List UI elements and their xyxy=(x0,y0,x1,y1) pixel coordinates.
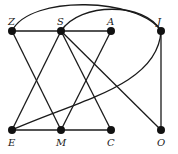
label-S: S xyxy=(57,16,64,27)
label-E: E xyxy=(7,137,16,148)
node-S xyxy=(57,27,65,35)
label-A: A xyxy=(106,16,114,27)
node-C xyxy=(107,126,115,134)
edge-S-O xyxy=(61,31,161,130)
node-Z xyxy=(8,27,16,35)
label-J: J xyxy=(155,16,162,27)
label-Z: Z xyxy=(7,16,16,27)
node-M xyxy=(57,126,65,134)
edge-Z-J-arc xyxy=(12,5,161,31)
node-J xyxy=(157,27,165,35)
node-O xyxy=(157,126,165,134)
edges xyxy=(12,5,161,130)
label-M: M xyxy=(55,137,67,148)
node-E xyxy=(8,126,16,134)
node-A xyxy=(107,27,115,35)
graph-diagram: Z S A J E M C O xyxy=(0,0,178,154)
label-O: O xyxy=(157,137,165,148)
label-C: C xyxy=(107,137,115,148)
